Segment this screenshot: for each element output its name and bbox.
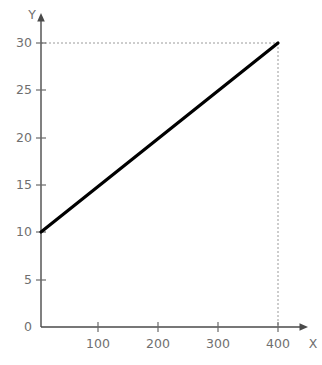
y-tick-label-10: 10 — [16, 224, 32, 239]
chart-container: 30 25 20 15 10 5 0 100 200 300 400 Y X — [0, 0, 322, 365]
x-tick-label-400: 400 — [266, 336, 290, 351]
y-tick-label-20: 20 — [16, 130, 32, 145]
y-tick-label-15: 15 — [16, 177, 32, 192]
data-series-line — [41, 43, 278, 232]
line-chart: 30 25 20 15 10 5 0 100 200 300 400 Y X — [0, 0, 322, 365]
y-axis-arrow-icon — [37, 13, 45, 22]
y-tick-label-0: 0 — [24, 319, 32, 334]
x-tick-label-200: 200 — [146, 336, 170, 351]
x-tick-label-100: 100 — [86, 336, 110, 351]
y-tick-label-25: 25 — [16, 82, 32, 97]
x-tick-label-300: 300 — [206, 336, 230, 351]
x-axis-arrow-icon — [300, 323, 309, 331]
y-tick-label-30: 30 — [16, 35, 32, 50]
x-axis-title: X — [309, 336, 318, 351]
y-axis-title: Y — [27, 7, 36, 22]
y-tick-label-5: 5 — [24, 272, 32, 287]
